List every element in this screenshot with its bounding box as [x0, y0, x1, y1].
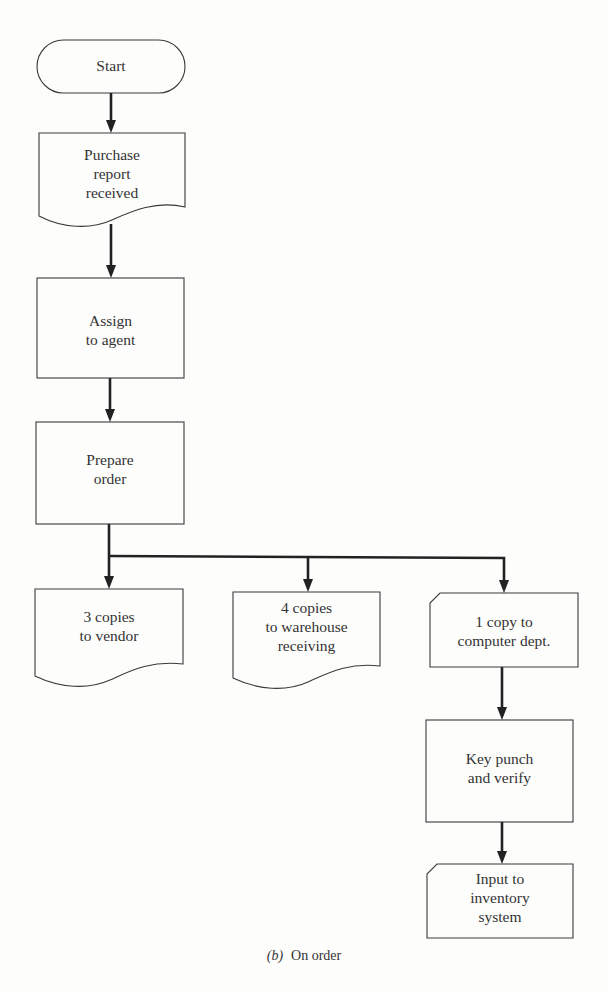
node-line: Input to	[427, 869, 573, 888]
node-prepare-order: Prepare order	[36, 450, 184, 488]
caption-text: On order	[291, 948, 341, 963]
node-line: order	[36, 469, 184, 488]
node-line: 4 copies	[233, 598, 380, 617]
arrow-icon	[497, 851, 507, 864]
node-line: to agent	[37, 330, 184, 349]
node-4-copies-to-warehouse: 4 copies to warehouse receiving	[233, 598, 380, 655]
node-line: 1 copy to	[430, 612, 578, 631]
arrow-icon	[497, 707, 507, 720]
node-line: computer dept.	[430, 631, 578, 650]
arrow-icon	[303, 579, 313, 592]
arrow-icon	[106, 120, 116, 133]
node-line: to vendor	[35, 626, 183, 645]
node-line: to warehouse	[233, 617, 380, 636]
node-line: Start	[37, 56, 185, 75]
node-start: Start	[37, 56, 185, 75]
node-1-copy-to-computer: 1 copy to computer dept.	[430, 612, 578, 650]
node-line: and verify	[426, 768, 573, 787]
node-line: Prepare	[36, 450, 184, 469]
node-line: received	[39, 183, 185, 202]
node-3-copies-to-vendor: 3 copies to vendor	[35, 607, 183, 645]
arrow-icon	[106, 265, 116, 278]
arrow-icon	[105, 409, 115, 422]
arrow-icon	[499, 580, 509, 593]
node-line: 3 copies	[35, 607, 183, 626]
node-key-punch-and-verify: Key punch and verify	[426, 749, 573, 787]
node-purchase-report-received: Purchase report received	[39, 145, 185, 202]
node-line: inventory	[427, 888, 573, 907]
node-line: receiving	[233, 636, 380, 655]
node-line: Purchase	[39, 145, 185, 164]
node-line: system	[427, 907, 573, 926]
node-assign-to-agent: Assign to agent	[37, 311, 184, 349]
node-line: Assign	[37, 311, 184, 330]
figure-caption: (b)On order	[0, 948, 608, 964]
node-line: report	[39, 164, 185, 183]
node-line: Key punch	[426, 749, 573, 768]
arrow-icon	[104, 576, 114, 589]
node-input-to-inventory: Input to inventory system	[427, 869, 573, 926]
caption-letter: (b)	[267, 948, 283, 963]
